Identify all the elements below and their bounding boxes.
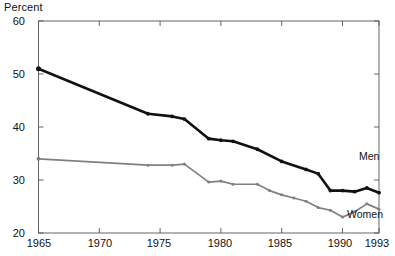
y-tick-label-60: 60: [3, 15, 25, 27]
x-tick-label-1993: 1993: [357, 237, 395, 249]
x-tick-label-1980: 1980: [200, 237, 240, 249]
data-point-men-1993: [377, 191, 381, 195]
y-tick-label-30: 30: [3, 174, 25, 186]
y-tick-label-40: 40: [3, 121, 25, 133]
line-chart-plot: [0, 0, 395, 256]
data-point-men-1992: [365, 186, 369, 190]
data-point-women-1980: [219, 180, 222, 183]
series-label-women: Women: [347, 208, 383, 220]
data-point-men-1976: [170, 115, 174, 119]
data-point-women-1979: [207, 181, 210, 184]
data-point-men-1985: [280, 160, 284, 164]
x-tick-label-1975: 1975: [139, 237, 179, 249]
data-point-women-1976: [171, 164, 174, 167]
data-point-women-1981: [232, 183, 235, 186]
data-point-men-1977: [183, 117, 187, 121]
chart-container: Percent 60 50 40 30 20 1965 1970 1975 19…: [0, 0, 395, 256]
data-point-men-1980: [219, 138, 223, 142]
data-point-women-1989: [329, 209, 332, 212]
data-point-men-1974: [146, 112, 150, 116]
data-point-men-1983: [255, 147, 259, 151]
data-point-women-1985: [280, 193, 283, 196]
data-point-women-1965: [37, 157, 41, 161]
plot-frame: [39, 21, 380, 233]
data-point-women-1983: [256, 183, 259, 186]
data-point-women-1974: [146, 164, 149, 167]
data-point-men-1989: [328, 189, 332, 193]
data-point-men-1990: [341, 189, 345, 193]
data-point-men-1979: [207, 137, 211, 141]
data-point-women-1986: [292, 197, 295, 200]
y-tick-label-50: 50: [3, 68, 25, 80]
data-point-women-1992: [365, 202, 368, 205]
data-point-men-1965: [36, 66, 41, 71]
series-label-men: Men: [359, 150, 379, 162]
x-tick-label-1970: 1970: [80, 237, 120, 249]
data-point-men-1987: [304, 168, 308, 172]
data-point-men-1981: [231, 139, 235, 143]
series-line-men: [39, 69, 380, 193]
x-tick-label-1990: 1990: [320, 237, 360, 249]
data-point-women-1988: [317, 206, 320, 209]
data-point-women-1987: [305, 200, 308, 203]
data-point-women-1977: [183, 163, 186, 166]
x-tick-label-1965: 1965: [19, 237, 59, 249]
data-point-men-1988: [316, 172, 320, 176]
data-point-men-1991: [353, 190, 357, 194]
data-point-women-1990: [341, 216, 344, 219]
data-point-women-1984: [268, 189, 271, 192]
x-tick-label-1985: 1985: [260, 237, 300, 249]
